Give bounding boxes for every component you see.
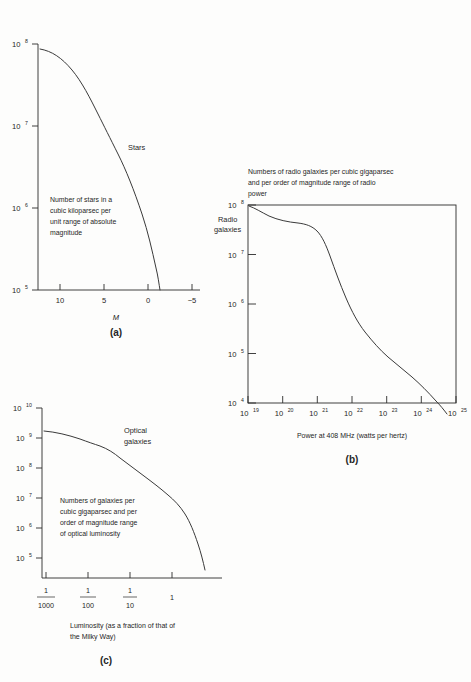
svg-text:23: 23 (392, 407, 398, 413)
panel-c-y-tick-label: 10 7 (16, 492, 32, 503)
svg-text:10: 10 (309, 409, 317, 418)
svg-text:19: 19 (253, 407, 259, 413)
panel-b-y-tick-label: 10 8 (228, 199, 244, 210)
svg-text:20: 20 (288, 407, 294, 413)
panel-a-x-tick-label: 10 (56, 296, 64, 305)
panel-c-tick-numerator: 1 (86, 586, 90, 595)
panel-a-x-tick-label: −5 (188, 296, 197, 305)
panel-c-y-tick-label: 10 6 (16, 522, 32, 533)
panel-c-x-axis-label-line: Luminosity (as a fraction of that of (70, 622, 175, 630)
panel-b-radio-galaxies: Numbers of radio galaxies per cubic giga… (228, 160, 471, 480)
svg-text:10: 10 (16, 464, 24, 473)
panel-b-x-axis-label: Power at 408 MHz (watts per hertz) (297, 432, 407, 440)
svg-text:10: 10 (228, 350, 236, 359)
panel-b-x-tick-label: 10 25 (448, 407, 467, 418)
panel-c-tick-numerator: 1 (128, 586, 132, 595)
svg-text:22: 22 (357, 407, 363, 413)
panel-b-letter: (b) (346, 454, 359, 465)
svg-text:6: 6 (25, 202, 28, 208)
svg-text:10: 10 (16, 434, 24, 443)
panel-b-x-tick-label: 10 20 (275, 407, 294, 418)
svg-text:10: 10 (12, 204, 20, 213)
panel-b-plot: Numbers of radio galaxies per cubic giga… (228, 160, 471, 480)
panel-c-tick-denominator: 1000 (38, 601, 54, 610)
panel-c-plot: 10 10 10 9 10 8 10 7 10 6 10 5 (0, 398, 235, 682)
panel-a-annotation: Number of stars in a cubic kiloparsec pe… (50, 196, 116, 237)
svg-text:8: 8 (241, 199, 244, 205)
panel-c-annotation-line: order of magnitude range (60, 519, 138, 527)
svg-text:7: 7 (29, 492, 32, 498)
panel-c-annotation-line: Numbers of galaxies per (60, 497, 135, 505)
svg-text:10: 10 (413, 409, 421, 418)
svg-text:10: 10 (16, 494, 24, 503)
panel-c-x-tick-label: 1 (170, 593, 174, 602)
svg-text:10: 10 (448, 409, 456, 418)
panel-c-annotation-line: of optical luminosity (60, 530, 121, 538)
panel-b-series-label: Radio galaxies (214, 215, 241, 234)
panel-c-y-tick-label: 10 10 (13, 402, 32, 413)
panel-c-letter: (c) (100, 655, 112, 666)
panel-b-x-tick-label: 10 21 (309, 407, 328, 418)
panel-b-annotation-line: and per order of magnitude range of radi… (248, 179, 376, 187)
panel-b-frame (248, 205, 456, 403)
panel-b-series-label-line: Radio (218, 215, 237, 224)
panel-b-y-tick-label: 10 6 (228, 298, 244, 309)
svg-text:10: 10 (344, 409, 352, 418)
panel-a-y-tick-label: 10 6 (12, 202, 28, 213)
panel-c-annotation: Numbers of galaxies per cubic gigaparsec… (60, 497, 138, 538)
svg-text:5: 5 (25, 284, 28, 290)
panel-a-x-tick-label: 0 (146, 296, 150, 305)
svg-text:10: 10 (379, 409, 387, 418)
panel-a-plot: 10 5 10 6 10 7 10 8 10 5 0 −5 (0, 18, 230, 338)
panel-b-y-tick-label: 10 7 (228, 249, 244, 260)
svg-text:6: 6 (29, 522, 32, 528)
svg-text:4: 4 (241, 397, 244, 403)
svg-text:10: 10 (228, 300, 236, 309)
svg-text:10: 10 (13, 404, 21, 413)
panel-a-stars: 10 5 10 6 10 7 10 8 10 5 0 −5 (0, 18, 230, 338)
panel-c-x-tick-label: 1 1000 (37, 586, 55, 610)
svg-text:10: 10 (16, 524, 24, 533)
panel-c-x-tick-label: 1 10 (123, 586, 137, 610)
panel-c-optical-galaxies: 10 10 10 9 10 8 10 7 10 6 10 5 (0, 398, 235, 682)
panel-c-tick-numerator: 1 (44, 586, 48, 595)
panel-c-annotation-line: cubic gigaparsec and per (60, 508, 138, 516)
panel-a-x-axis-label: M (113, 313, 120, 322)
panel-c-tick-denominator: 10 (126, 601, 134, 610)
panel-a-letter: (a) (110, 327, 122, 338)
panel-b-curve-radio-galaxies (249, 206, 447, 414)
svg-text:8: 8 (25, 38, 28, 44)
panel-c-y-tick-label: 10 5 (16, 552, 32, 563)
panel-c-series-label: Optical galaxies (124, 426, 151, 446)
panel-a-series-label: Stars (128, 143, 146, 152)
svg-text:24: 24 (426, 407, 432, 413)
svg-text:10: 10 (240, 409, 248, 418)
svg-text:10: 10 (26, 402, 32, 408)
figure-sheet: 10 5 10 6 10 7 10 8 10 5 0 −5 (0, 0, 471, 682)
svg-text:10: 10 (228, 201, 236, 210)
panel-b-x-tick-label: 10 22 (344, 407, 363, 418)
panel-b-x-tick-label: 10 23 (379, 407, 398, 418)
panel-c-x-axis-label: Luminosity (as a fraction of that of the… (70, 622, 175, 641)
panel-a-annotation-line: magnitude (50, 229, 82, 237)
panel-a-annotation-line: Number of stars in a (50, 196, 112, 203)
panel-b-series-label-line: galaxies (214, 225, 241, 234)
panel-a-curve-stars (40, 49, 160, 290)
svg-text:10: 10 (12, 286, 20, 295)
svg-text:9: 9 (29, 432, 32, 438)
svg-text:10: 10 (228, 251, 236, 260)
svg-text:10: 10 (16, 554, 24, 563)
panel-a-annotation-line: cubic kiloparsec per (50, 207, 112, 215)
svg-text:10: 10 (12, 40, 20, 49)
svg-text:25: 25 (461, 407, 467, 413)
panel-c-tick-denominator: 100 (82, 601, 94, 610)
panel-c-y-tick-label: 10 8 (16, 462, 32, 473)
panel-c-x-tick-label: 1 100 (80, 586, 96, 610)
panel-c-series-label-line: galaxies (124, 437, 151, 446)
svg-text:10: 10 (275, 409, 283, 418)
svg-text:5: 5 (241, 348, 244, 354)
svg-text:10: 10 (12, 122, 20, 131)
svg-text:5: 5 (29, 552, 32, 558)
svg-text:6: 6 (241, 298, 244, 304)
svg-text:7: 7 (25, 120, 28, 126)
